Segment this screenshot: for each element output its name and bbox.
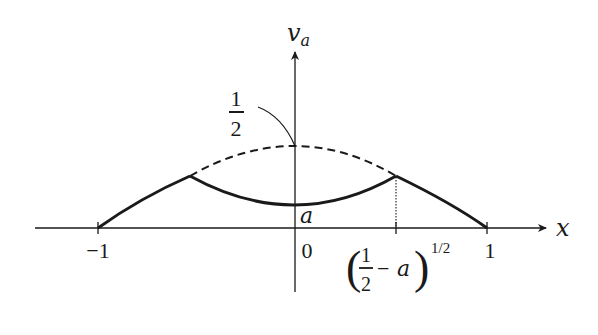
- corner-label-close-paren: ): [414, 242, 429, 293]
- peak-leader-line: [258, 107, 295, 146]
- origin-label: 0: [302, 238, 313, 263]
- corner-label-var: a: [397, 256, 410, 281]
- inner-curve: [190, 176, 396, 205]
- peak-fraction-denominator: 2: [231, 116, 242, 141]
- corner-label-exponent: 1/2: [431, 240, 450, 256]
- y-axis-label: va: [287, 19, 310, 50]
- peak-fraction-numerator: 1: [231, 86, 242, 111]
- outer-curve-left: [98, 176, 190, 228]
- x-axis-label: x: [556, 214, 570, 242]
- diagram-canvas: va x 1 2 a −1 1 0 ( 1 2 − a ) 1/2: [0, 0, 598, 335]
- corner-label-minus: −: [377, 256, 389, 281]
- outer-curve-right: [396, 176, 487, 228]
- corner-label-numerator: 1: [361, 244, 371, 266]
- tick-label-minus-one: −1: [86, 238, 109, 263]
- dashed-curve: [190, 146, 396, 176]
- min-value-label: a: [300, 203, 313, 228]
- tick-label-one: 1: [485, 238, 496, 263]
- corner-x-label: ( 1 2 − a ) 1/2: [346, 240, 450, 295]
- corner-label-denominator: 2: [361, 273, 371, 295]
